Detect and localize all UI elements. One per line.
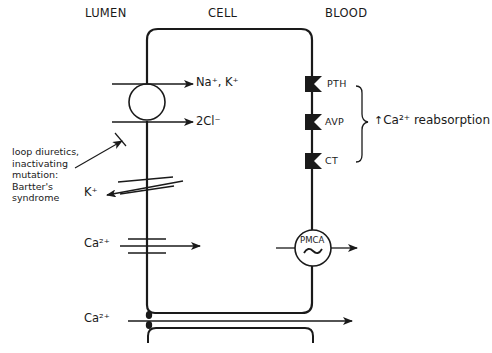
k-label: K⁺ [84, 187, 98, 199]
lumen-label: LUMEN [85, 8, 127, 20]
loop-diuretics-annotation: loop diuretics, inactivating mutation: B… [12, 146, 79, 204]
na-k-label: Na⁺, K⁺ [196, 77, 239, 89]
cell-membrane [147, 29, 312, 230]
ca-channel-label: Ca²⁺ [84, 238, 110, 250]
k-arrow [107, 181, 183, 195]
cell-membrane-bottom [155, 266, 312, 313]
brace-icon [356, 86, 368, 162]
ct-receptor-icon [305, 153, 322, 169]
ct-label: CT [325, 156, 338, 166]
pth-receptor-icon [305, 76, 322, 92]
paracellular-ca-label: Ca²⁺ [84, 313, 110, 325]
blood-label: BLOOD [325, 8, 367, 20]
cell-membrane-lower-left [147, 121, 155, 313]
pmca-label: PMCA [300, 236, 324, 245]
tight-junction-top [146, 311, 152, 319]
tight-junction-bottom [146, 321, 152, 329]
adjacent-cell-membrane [148, 328, 313, 343]
cl-label: 2Cl⁻ [196, 116, 221, 128]
avp-receptor-icon [305, 114, 322, 130]
romk-channel-line-1 [118, 177, 173, 182]
up-arrow-icon: ↑ [374, 114, 383, 127]
avp-label: AVP [325, 117, 344, 127]
calcium-reabsorption-label: ↑Ca²⁺ reabsorption [374, 114, 490, 126]
nkcc2-cotransporter [129, 84, 165, 120]
inhibition-arrow [75, 141, 122, 168]
reabsorption-text: Ca²⁺ reabsorption [383, 113, 490, 127]
cell-label: CELL [208, 8, 237, 20]
pth-label: PTH [327, 79, 347, 89]
